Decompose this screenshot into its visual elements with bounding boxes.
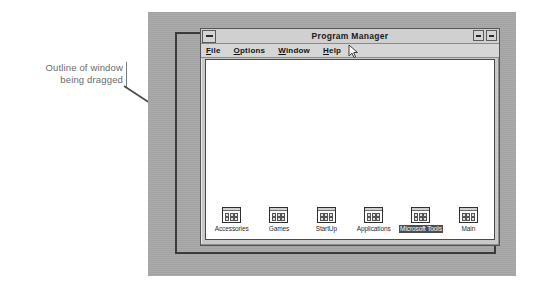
group-icon-label[interactable]: StartUp (315, 225, 338, 233)
group-item-cell (324, 217, 328, 221)
program-group-icon (317, 207, 336, 223)
minimize-button[interactable] (473, 30, 484, 41)
group-icon-label[interactable]: Accessories (214, 225, 250, 233)
system-menu-icon[interactable] (202, 30, 216, 43)
group-item-cell (329, 217, 333, 221)
group-item-cell (466, 217, 470, 221)
group-item-cell (419, 217, 423, 221)
group-icon-startup[interactable]: StartUp (303, 207, 350, 233)
maximize-button[interactable] (486, 30, 497, 41)
group-item-cell (414, 217, 418, 221)
group-item-cell (423, 217, 427, 221)
group-icon-main[interactable]: Main (445, 207, 492, 233)
program-group-icon (411, 207, 430, 223)
program-group-icon (222, 207, 241, 223)
menu-window[interactable]: Window (278, 44, 310, 57)
program-group-icon (364, 207, 383, 223)
group-icon-label[interactable]: Main (460, 225, 476, 233)
group-item-cell (372, 217, 376, 221)
annotation-line-1: Outline of window (18, 62, 123, 74)
group-icon-row: AccessoriesGamesStartUpApplicationsMicro… (208, 207, 492, 233)
desktop-background: Program Manager FileOptionsWindowHelp Ac… (148, 12, 516, 276)
group-item-cell (225, 217, 229, 221)
menu-file[interactable]: File (206, 44, 221, 57)
group-icon-label[interactable]: Microsoft Tools (399, 225, 443, 233)
group-item-cell (281, 217, 285, 221)
program-manager-window[interactable]: Program Manager FileOptionsWindowHelp Ac… (200, 28, 500, 246)
group-item-cell (471, 217, 475, 221)
group-item-cell (376, 217, 380, 221)
group-icon-label[interactable]: Games (268, 225, 290, 233)
maximize-icon (489, 35, 494, 37)
group-icon-applications[interactable]: Applications (350, 207, 397, 233)
title-bar[interactable]: Program Manager (201, 29, 499, 44)
program-group-icon (269, 207, 288, 223)
mouse-cursor-icon (348, 44, 359, 59)
window-title: Program Manager (201, 29, 499, 43)
program-group-icon (459, 207, 478, 223)
group-item-cell (367, 217, 371, 221)
menu-help[interactable]: Help (323, 44, 341, 57)
group-item-cell (230, 217, 234, 221)
window-client-area[interactable]: AccessoriesGamesStartUpApplicationsMicro… (205, 59, 495, 240)
group-item-cell (272, 217, 276, 221)
group-icon-games[interactable]: Games (255, 207, 302, 233)
annotation-callout: Outline of window being dragged (18, 62, 123, 86)
group-item-cell (320, 217, 324, 221)
group-icon-accessories[interactable]: Accessories (208, 207, 255, 233)
group-icon-label[interactable]: Applications (356, 225, 392, 233)
title-bar-buttons (473, 30, 497, 41)
group-item-cell (234, 217, 238, 221)
group-item-cell (462, 217, 466, 221)
minimize-dash-icon (206, 35, 213, 37)
annotation-bracket (126, 62, 127, 88)
annotation-line-2: being dragged (18, 74, 123, 86)
group-item-cell (277, 217, 281, 221)
group-icon-microsoft-tools[interactable]: Microsoft Tools (397, 207, 444, 233)
minimize-icon (476, 35, 481, 37)
menu-options[interactable]: Options (234, 44, 266, 57)
